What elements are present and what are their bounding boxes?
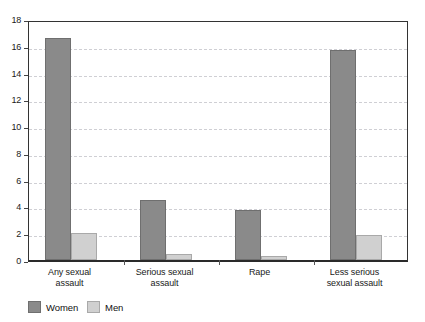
bar-men-0	[71, 233, 97, 260]
y-axis-tick-label: 14	[5, 69, 21, 79]
y-axis-tick-label: 2	[5, 229, 21, 239]
x-axis-separator-tick	[314, 260, 315, 265]
x-axis-separator-tick	[219, 260, 220, 265]
x-axis-separator-tick	[124, 260, 125, 265]
y-axis-tick-label: 18	[5, 15, 21, 25]
y-axis-tick-label: 4	[5, 202, 21, 212]
chart-legend: WomenMen	[28, 301, 123, 313]
plot-area	[28, 21, 408, 262]
legend-label: Men	[105, 302, 123, 313]
bar-chart-figure: 024681012141618 Any sexual assaultSeriou…	[0, 0, 425, 322]
legend-swatch-men	[87, 301, 100, 313]
bar-women-3	[330, 50, 356, 260]
bar-men-1	[166, 254, 192, 260]
x-axis-category-label: Less serious sexual assault	[307, 267, 402, 289]
bar-men-2	[261, 256, 287, 260]
bars-layer	[29, 22, 407, 260]
y-axis-tick-mark	[24, 262, 28, 263]
y-axis-tick-label: 12	[5, 95, 21, 105]
bar-men-3	[356, 235, 382, 260]
y-axis-tick-label: 8	[5, 149, 21, 159]
x-axis-category-label: Serious sexual assault	[117, 267, 212, 289]
y-axis-tick-label: 10	[5, 122, 21, 132]
bar-women-1	[140, 200, 166, 260]
bar-women-2	[235, 210, 261, 260]
legend-swatch-women	[28, 301, 41, 313]
y-axis-tick-label: 16	[5, 42, 21, 52]
y-axis-tick-label: 0	[5, 256, 21, 266]
y-axis-tick-label: 6	[5, 176, 21, 186]
x-axis-category-label: Any sexual assault	[22, 267, 117, 289]
legend-label: Women	[46, 302, 78, 313]
legend-item-women: Women	[28, 301, 78, 313]
x-axis-category-label: Rape	[212, 267, 307, 278]
legend-item-men: Men	[87, 301, 123, 313]
bar-women-0	[45, 38, 71, 260]
